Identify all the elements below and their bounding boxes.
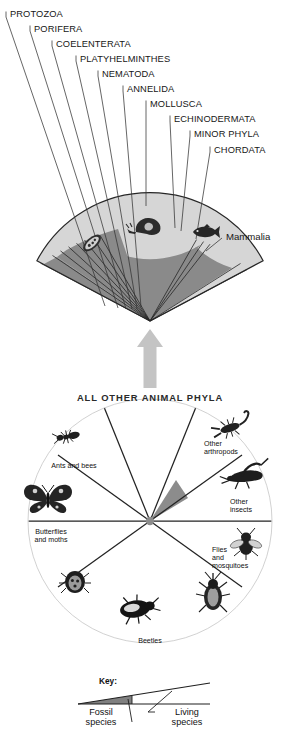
living-line2: species (156, 717, 218, 727)
figure-root: PROTOZOA PORIFERA COELENTERATA PLATYHELM… (0, 0, 300, 750)
key-living-label: Living species (156, 707, 218, 727)
key-graphic (0, 0, 300, 750)
fossil-line1: Fossil (71, 707, 131, 717)
fossil-line2: species (71, 717, 131, 727)
key-fossil-label: Fossil species (71, 707, 131, 727)
living-line1: Living (156, 707, 218, 717)
